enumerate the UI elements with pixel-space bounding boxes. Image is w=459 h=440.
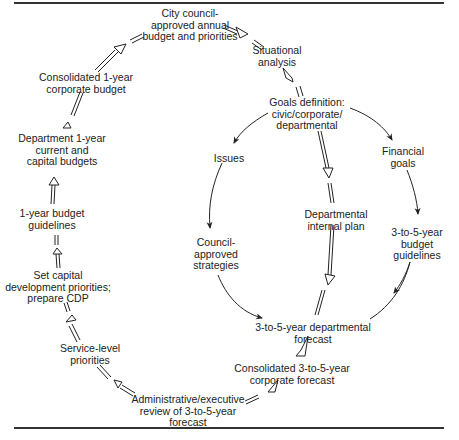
- node-line: Service-level: [60, 343, 120, 355]
- node-consolidated-1-year-budget: Consolidated 1-year corporate budget: [39, 72, 133, 95]
- node-line: Administrative/executive: [131, 394, 244, 406]
- node-service-level-priorities: Service-level priorities: [60, 343, 120, 366]
- arrow-budget35-forecast: [370, 262, 410, 319]
- node-line: Consolidated 1-year: [39, 72, 133, 84]
- node-line: Council-: [193, 237, 239, 249]
- node-line: strategies: [193, 260, 239, 272]
- node-set-capital-development-priorities: Set capital development priorities; prep…: [5, 270, 111, 305]
- node-line: forecast: [131, 417, 244, 429]
- arrow-council-forecast: [218, 275, 262, 318]
- node-line: prepare CDP: [5, 293, 111, 305]
- node-line: budget and priorities: [142, 31, 237, 43]
- node-line: 1-year budget: [20, 208, 85, 220]
- node-line: 3-to-5-year: [391, 227, 442, 239]
- node-city-council-budget: City council- approved annual budget and…: [142, 8, 237, 43]
- node-council-approved-strategies: Council- approved strategies: [193, 237, 239, 272]
- node-goals-definition: Goals definition: civic/corporate/ depar…: [269, 97, 344, 132]
- node-line: departmental: [269, 120, 344, 132]
- node-consolidated-corporate-forecast: Consolidated 3-to-5-year corporate forec…: [234, 363, 350, 386]
- node-line: analysis: [252, 57, 301, 69]
- node-line: Set capital: [5, 270, 111, 282]
- node-line: internal plan: [304, 221, 367, 233]
- node-1-year-budget-guidelines: 1-year budget guidelines: [20, 208, 85, 231]
- node-situational-analysis: Situational analysis: [252, 45, 301, 68]
- node-financial-goals: Financial goals: [382, 146, 424, 169]
- node-line: Consolidated 3-to-5-year: [234, 363, 350, 375]
- node-line: Department 1-year: [18, 133, 106, 145]
- node-line: Financial: [382, 146, 424, 158]
- arrow-financial-budget35: [407, 170, 418, 214]
- node-line: Departmental: [304, 209, 367, 221]
- node-line: guidelines: [20, 220, 85, 232]
- node-line: capital budgets: [18, 156, 106, 168]
- node-line: corporate forecast: [234, 375, 350, 387]
- node-line: Situational: [252, 45, 301, 57]
- node-issues: Issues: [214, 153, 244, 165]
- arrow-issues-council: [210, 163, 223, 228]
- node-line: forecast: [255, 334, 371, 346]
- node-3-to-5-year-budget-guidelines: 3-to-5-year budget guidelines: [391, 227, 442, 262]
- node-line: priorities: [60, 355, 120, 367]
- node-line: Issues: [214, 153, 244, 165]
- node-departmental-internal-plan: Departmental internal plan: [304, 209, 367, 232]
- arrow-goals-financial: [350, 108, 392, 140]
- node-line: corporate budget: [39, 84, 133, 96]
- node-line: Goals definition:: [269, 97, 344, 109]
- node-line: guidelines: [391, 250, 442, 262]
- node-line: goals: [382, 158, 424, 170]
- node-line: 3-to-5-year departmental: [255, 322, 371, 334]
- node-line: City council-: [142, 8, 237, 20]
- arrow-goals-issues: [234, 113, 268, 143]
- node-administrative-review: Administrative/executive review of 3-to-…: [131, 394, 244, 429]
- node-department-1-year-budgets: Department 1-year current and capital bu…: [18, 133, 106, 168]
- node-3-to-5-year-departmental-forecast: 3-to-5-year departmental forecast: [255, 322, 371, 345]
